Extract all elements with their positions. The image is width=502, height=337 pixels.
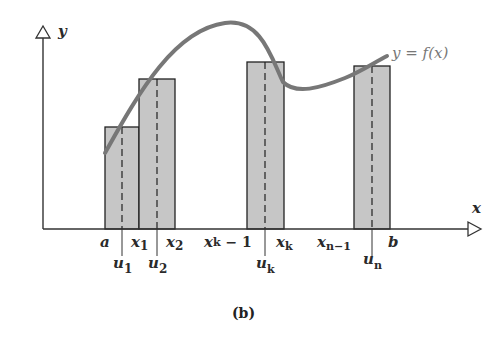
y-axis-label: y	[57, 22, 68, 40]
curve-label: y = f(x)	[391, 44, 448, 62]
figure-caption: (b)	[232, 305, 255, 321]
label-un: un	[363, 250, 382, 272]
label-xk-1: xk − 1	[203, 233, 252, 251]
riemann-sum-figure: y x a x1 x2 xk − 1 xk xn−1 b u1 u2 uk un…	[0, 0, 502, 337]
partition-labels: a x1 x2 xk − 1 xk xn−1 b	[100, 233, 399, 253]
sample-labels: u1 u2 uk un	[113, 250, 382, 276]
label-x2: x2	[165, 233, 183, 253]
rectangles	[105, 62, 390, 229]
label-xk: xk	[275, 233, 293, 253]
label-xn-1: xn−1	[316, 233, 351, 253]
x-axis-arrow-icon	[468, 222, 481, 236]
label-a: a	[100, 233, 110, 251]
y-axis-arrow-icon	[36, 26, 50, 38]
label-x1: x1	[130, 233, 148, 253]
x-axis-label: x	[471, 199, 482, 217]
label-b: b	[388, 233, 399, 251]
label-u1: u1	[113, 254, 132, 276]
label-uk: uk	[256, 254, 275, 276]
label-u2: u2	[148, 254, 167, 276]
